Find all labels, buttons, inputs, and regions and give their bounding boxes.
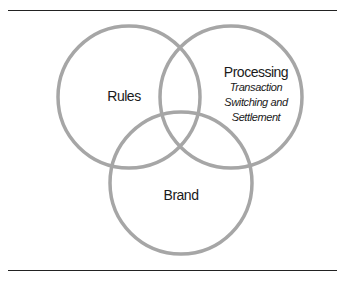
sublabel-switching: Switching and [224,95,288,110]
label-processing-group: Processing Transaction Switching and Set… [224,64,288,125]
sublabel-settlement: Settlement [224,110,288,125]
venn-diagram [0,0,337,281]
label-processing: Processing [224,64,288,80]
circle-brand [110,112,252,254]
bottom-rule [8,270,337,271]
label-rules: Rules [107,88,140,104]
label-brand: Brand [164,187,199,203]
sublabel-transaction: Transaction [224,80,288,95]
